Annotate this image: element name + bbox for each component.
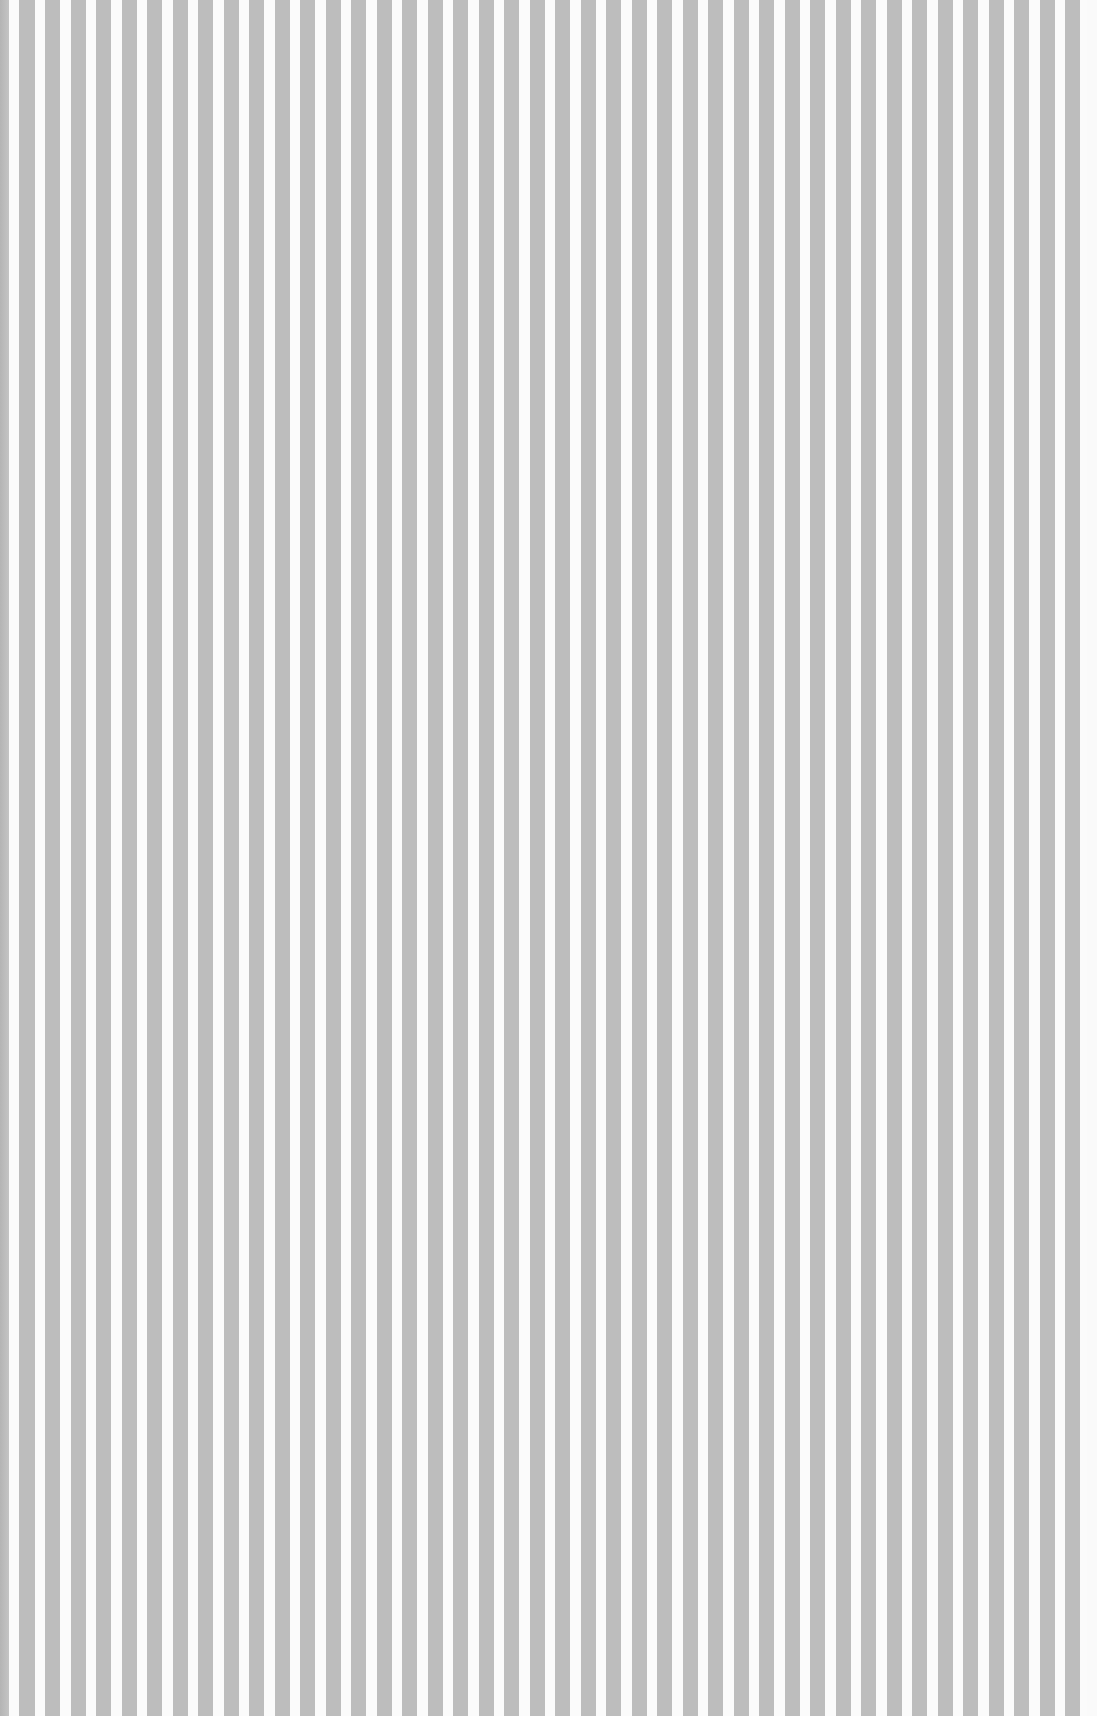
left-edge-shadow (0, 0, 9, 1716)
right-edge-margin (1087, 0, 1097, 1716)
stripe-pattern-canvas: Vertical gray and white pinstripe textur… (0, 0, 1097, 1716)
